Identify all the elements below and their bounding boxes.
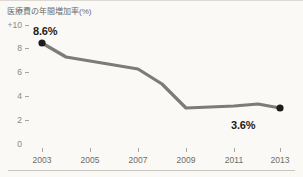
x-axis-tick-label-2011: 2011 — [217, 155, 251, 165]
x-axis-tick-mark-2013 — [280, 148, 281, 152]
x-axis-tick-label-2009: 2009 — [169, 155, 203, 165]
data-point-marker-end — [276, 104, 283, 111]
x-axis-tick-label-2003: 2003 — [25, 155, 59, 165]
x-axis-tick-mark-2005 — [90, 148, 91, 152]
bottom-divider — [8, 170, 295, 171]
x-axis-tick-mark-2009 — [186, 148, 187, 152]
data-line — [42, 43, 280, 108]
x-axis-tick-mark-2003 — [42, 148, 43, 152]
chart-container: 医療費の年間増加率(%) +10 8 6 4 2 0 8.6% 3.6% 200… — [0, 0, 303, 177]
data-point-marker-start — [38, 39, 45, 46]
annotation-end-value: 3.6% — [231, 119, 255, 131]
x-axis-tick-mark-2011 — [234, 148, 235, 152]
x-axis-tick-label-2005: 2005 — [73, 155, 107, 165]
x-axis-tick-mark-2007 — [138, 148, 139, 152]
annotation-start-value: 8.6% — [33, 25, 57, 37]
x-axis-tick-label-2013: 2013 — [263, 155, 297, 165]
x-axis-tick-label-2007: 2007 — [121, 155, 155, 165]
